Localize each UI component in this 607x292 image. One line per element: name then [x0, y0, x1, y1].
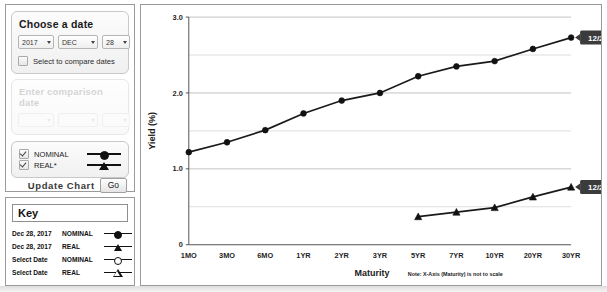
series-toggle-real[interactable]: REAL*	[19, 160, 121, 170]
data-point-nominal[interactable]	[530, 46, 536, 52]
chevron-down-icon	[123, 119, 127, 122]
controls-panel: Choose a date 2017 DEC 28	[5, 4, 135, 192]
hollow-circle-icon	[114, 257, 122, 265]
comparison-select-row	[18, 113, 122, 127]
key-row-marker	[104, 242, 132, 252]
sidebar: Choose a date 2017 DEC 28	[5, 4, 135, 286]
month-value: DEC	[62, 39, 77, 46]
key-row: Dec 28, 2017 NOMINAL	[12, 229, 128, 239]
y-tick-label: 3.0	[173, 13, 183, 22]
series-toggle-fieldset: NOMINAL REAL*	[11, 141, 129, 178]
data-point-nominal[interactable]	[262, 127, 268, 133]
data-point-nominal[interactable]	[568, 35, 574, 41]
data-point-nominal[interactable]	[224, 139, 230, 145]
compare-dates-checkbox[interactable]	[18, 56, 28, 66]
year-select[interactable]: 2017	[18, 35, 54, 49]
day-value: 28	[106, 39, 114, 46]
y-tick-label: 2.0	[173, 89, 183, 98]
x-tick-label: 3YR	[373, 251, 388, 260]
comparison-date-title: Enter comparison date	[19, 86, 122, 108]
chevron-down-icon	[47, 119, 51, 122]
key-row-type: REAL	[62, 243, 100, 250]
filled-circle-icon	[100, 151, 109, 160]
key-row-type: NOMINAL	[62, 256, 100, 263]
x-tick-label: 1MO	[181, 251, 197, 260]
x-tick-label: 6MO	[257, 251, 273, 260]
key-row-marker	[104, 255, 132, 265]
x-tick-label: 3MO	[219, 251, 235, 260]
data-point-nominal[interactable]	[454, 63, 460, 69]
nominal-checkbox[interactable]	[19, 149, 29, 159]
comparison-year-select	[18, 113, 54, 127]
data-point-real[interactable]	[568, 183, 575, 190]
go-button[interactable]: Go	[100, 178, 127, 193]
comparison-month-select	[58, 113, 98, 127]
key-row-date: Dec 28, 2017	[12, 243, 58, 250]
key-panel: Key Dec 28, 2017 NOMINAL Dec 28, 2017 RE…	[5, 197, 135, 286]
window-bottom-shadow	[0, 286, 607, 292]
x-axis-note: Note: X-Axis (Maturity) is not to scale	[408, 271, 503, 277]
x-tick-label: 5YR	[411, 251, 426, 260]
callout-pointer	[575, 184, 580, 191]
chevron-down-icon	[47, 41, 51, 44]
day-select[interactable]: 28	[102, 35, 130, 49]
yield-curve-app: Choose a date 2017 DEC 28	[0, 0, 607, 292]
chart-panel: 01.02.03.01MO3MO6MO1YR2YR3YR5YR7YR10YR20…	[140, 4, 602, 286]
key-row: Select Date NOMINAL	[12, 255, 128, 265]
data-point-nominal[interactable]	[186, 149, 192, 155]
chevron-down-icon	[91, 41, 95, 44]
filled-circle-icon	[114, 231, 122, 239]
key-row-marker	[104, 229, 132, 239]
choose-date-fieldset: Choose a date 2017 DEC 28	[11, 11, 129, 74]
data-point-nominal[interactable]	[301, 111, 307, 117]
key-title: Key	[12, 204, 128, 222]
x-axis-title: Maturity	[355, 268, 390, 278]
comparison-day-select	[102, 113, 130, 127]
x-tick-label: 2YR	[335, 251, 350, 260]
callout-label: 12/28/2017	[588, 34, 601, 43]
update-chart-label: Update Chart	[28, 180, 95, 191]
nominal-marker-sample	[87, 149, 121, 159]
real-checkbox[interactable]	[19, 160, 29, 170]
hollow-triangle-fill	[114, 271, 120, 276]
data-point-nominal[interactable]	[415, 73, 421, 79]
key-row-marker	[104, 268, 132, 278]
update-chart-row: Update Chart Go	[11, 178, 129, 194]
x-tick-label: 20YR	[524, 251, 543, 260]
filled-triangle-icon	[114, 244, 122, 251]
real-marker-sample	[87, 160, 121, 170]
key-row-type: REAL	[62, 269, 100, 276]
key-row-date: Select Date	[12, 256, 58, 263]
compare-dates-row[interactable]: Select to compare dates	[18, 56, 122, 66]
data-point-nominal[interactable]	[492, 58, 498, 64]
y-axis-title: Yield (%)	[147, 112, 157, 150]
month-select[interactable]: DEC	[58, 35, 98, 49]
year-value: 2017	[22, 39, 38, 46]
y-tick-label: 1.0	[173, 164, 183, 173]
real-label: REAL*	[34, 161, 80, 170]
key-row-date: Select Date	[12, 269, 58, 276]
data-point-nominal[interactable]	[339, 98, 345, 104]
chevron-down-icon	[123, 41, 127, 44]
chevron-down-icon	[91, 119, 95, 122]
x-tick-label: 1YR	[296, 251, 311, 260]
choose-date-title: Choose a date	[19, 18, 122, 30]
x-tick-label: 30YR	[562, 251, 581, 260]
series-line-real[interactable]	[418, 187, 571, 217]
compare-dates-label: Select to compare dates	[33, 57, 115, 66]
data-point-nominal[interactable]	[377, 90, 383, 96]
yield-curve-chart[interactable]: 01.02.03.01MO3MO6MO1YR2YR3YR5YR7YR10YR20…	[141, 5, 601, 285]
key-row: Select Date REAL	[12, 268, 128, 278]
nominal-label: NOMINAL	[34, 150, 80, 159]
x-tick-label: 7YR	[449, 251, 464, 260]
key-row-type: NOMINAL	[62, 230, 100, 237]
comparison-date-fieldset: Enter comparison date	[11, 79, 129, 135]
callout-pointer	[575, 34, 580, 41]
key-row: Dec 28, 2017 REAL	[12, 242, 128, 252]
callout-label: 12/28/2017	[588, 183, 601, 192]
key-row-date: Dec 28, 2017	[12, 230, 58, 237]
date-select-row: 2017 DEC 28	[18, 35, 122, 49]
series-toggle-nominal[interactable]: NOMINAL	[19, 149, 121, 159]
x-tick-label: 10YR	[485, 251, 504, 260]
y-tick-label: 0	[179, 240, 183, 249]
